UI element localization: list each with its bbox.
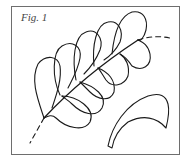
plume-6	[120, 40, 150, 68]
spine-dash-bottom	[30, 118, 44, 143]
feather-spine	[44, 40, 138, 118]
plume-7	[98, 54, 129, 85]
plume-3	[74, 31, 101, 80]
plume-1	[35, 57, 61, 118]
single-plume-template	[108, 94, 169, 148]
feather-diagram	[0, 0, 189, 165]
